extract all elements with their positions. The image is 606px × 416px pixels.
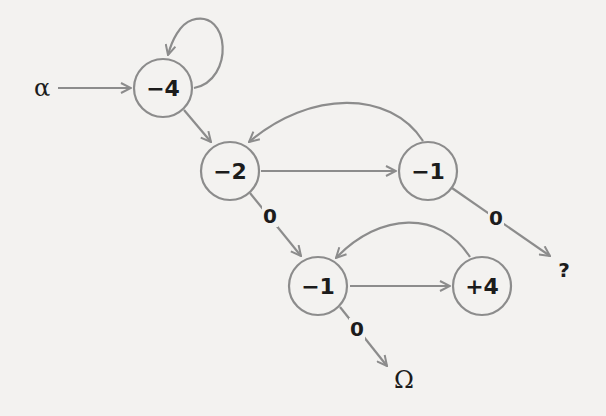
node-n2: −2: [201, 142, 259, 200]
node-n5: +4: [453, 257, 511, 315]
node-label: −1: [301, 274, 335, 299]
node-label: −4: [146, 76, 180, 101]
terminal-unknown: ?: [558, 258, 570, 282]
edge-n5-to-n4: [336, 223, 470, 258]
node-n3: −1: [399, 142, 457, 200]
state-diagram: 0 0 0 −4 −2 −1 −1 +4 α Ω ?: [0, 0, 606, 416]
edge-label-n4-omega: 0: [350, 317, 364, 341]
start-label-alpha: α: [34, 74, 50, 102]
edge-label-n3-unknown: 0: [489, 206, 503, 230]
edge-n1-to-n2: [184, 110, 211, 142]
node-n4: −1: [289, 257, 347, 315]
node-label: −2: [213, 159, 247, 184]
edge-n3-to-n2: [249, 103, 423, 142]
edge-label-n2-n4: 0: [263, 204, 277, 228]
diagram-canvas: 0 0 0 −4 −2 −1 −1 +4 α Ω ?: [0, 0, 606, 416]
node-label: −1: [411, 159, 445, 184]
terminal-omega: Ω: [394, 366, 414, 394]
node-label: +4: [465, 274, 499, 299]
node-n1: −4: [134, 59, 192, 117]
